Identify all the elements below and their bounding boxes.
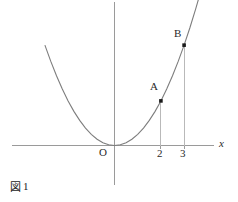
- point-label-b: B: [174, 28, 181, 39]
- parabola: [45, 0, 202, 146]
- point-label-a: A: [150, 81, 158, 92]
- figure-caption-number: 1: [23, 180, 29, 193]
- figure-container: O 2 3 x A B 図1: [0, 0, 238, 202]
- x-tick-label-2: 2: [157, 148, 163, 159]
- point-marker-a: [159, 99, 163, 103]
- parabola-plot: [0, 0, 238, 202]
- point-marker-b: [182, 43, 186, 47]
- x-tick-label-3: 3: [180, 148, 186, 159]
- origin-label: O: [99, 147, 107, 158]
- figure-caption: 図1: [10, 180, 29, 194]
- x-axis-label: x: [219, 138, 224, 149]
- figure-caption-glyph: 図: [10, 181, 21, 194]
